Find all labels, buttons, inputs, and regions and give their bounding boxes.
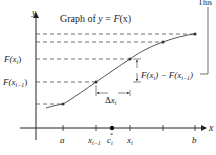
truncated-label: This — [198, 0, 212, 7]
y-axis-label: y — [31, 7, 36, 17]
tick-label-xi: xi — [126, 135, 133, 146]
diagram-canvas: This Graph of y = F(x) y x F(xi) F(xi−1) — [0, 0, 216, 155]
point-xi — [128, 57, 131, 60]
curve-points — [61, 32, 196, 105]
point-b — [193, 32, 196, 35]
ci-star-point — [110, 126, 114, 130]
point-xim1 — [94, 80, 97, 83]
tick-label-a: a — [60, 135, 65, 145]
label-F-xi: F(xi) — [3, 54, 21, 65]
label-F-xim1: F(xi−1) — [2, 77, 27, 88]
delta-x-label: Δxi — [105, 95, 117, 106]
tick-label-ci-star: ci* — [107, 132, 113, 146]
graph-title: Graph of y = F(x) — [60, 13, 131, 25]
point-a — [61, 102, 64, 105]
tick-label-b: b — [192, 135, 197, 145]
x-axis-label: x — [208, 122, 214, 133]
tick-label-xim1: xi−1 — [87, 135, 101, 146]
point-tick5 — [161, 40, 164, 43]
difference-label: F(xi) − F(xi−1) — [140, 70, 193, 81]
